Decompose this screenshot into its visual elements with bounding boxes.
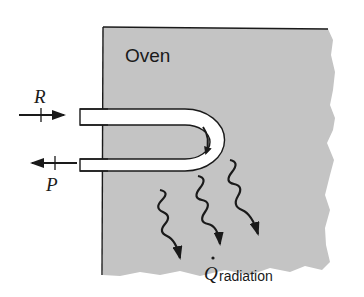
outlet-label: P	[45, 174, 58, 195]
oven-diagram: R P Oven Q radiation	[0, 0, 364, 297]
inlet-label: R	[33, 86, 46, 107]
oven-left-wall	[102, 27, 103, 275]
radiation-symbol: Q	[204, 263, 218, 284]
radiation-subscript: radiation	[219, 268, 273, 284]
inlet-arrow-icon	[19, 108, 64, 122]
outlet-arrow-icon	[32, 156, 77, 170]
oven-label: Oven	[125, 45, 170, 66]
